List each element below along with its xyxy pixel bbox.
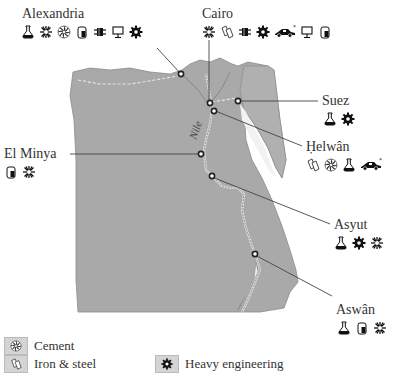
iron-steel-icon	[4, 355, 28, 373]
cement-icon	[324, 158, 338, 172]
industry-icons-alexandria	[21, 25, 143, 39]
electronics-icon	[300, 25, 314, 39]
city-label-cairo: Cairo	[202, 6, 233, 21]
chemicals-icon	[337, 321, 351, 335]
marker-asyut[interactable]	[209, 173, 214, 178]
textiles-icon	[373, 321, 387, 335]
iron-steel-icon	[306, 158, 320, 172]
legend-label: Heavy engineering	[185, 356, 284, 372]
food-processing-icon	[75, 25, 89, 39]
industry-icons-cairo	[202, 25, 332, 39]
heavy-engineering-icon	[155, 355, 179, 373]
textiles-icon	[202, 25, 216, 39]
textiles-icon	[39, 25, 53, 39]
electronics-icon	[111, 25, 125, 39]
food-processing-icon	[318, 25, 332, 39]
car-assembly-icon	[274, 25, 296, 39]
chemicals-icon	[21, 25, 35, 39]
industry-icons-aswan	[337, 321, 387, 335]
car-assembly-icon	[360, 158, 382, 172]
heavy-engineering-icon	[341, 112, 355, 126]
food-processing-icon	[355, 321, 369, 335]
chemicals-icon	[323, 112, 337, 126]
textiles-icon	[22, 165, 36, 179]
electrical-icon	[93, 25, 107, 39]
legend-item-cement: Cement	[4, 337, 74, 355]
marker-suez[interactable]	[235, 98, 240, 103]
heavy-engineering-icon	[129, 25, 143, 39]
cement-icon	[4, 337, 28, 355]
legend-item-iron-steel: Iron & steel	[4, 355, 96, 373]
legend-label: Iron & steel	[34, 356, 96, 372]
industry-icons-suez	[323, 112, 355, 126]
marker-helwan[interactable]	[211, 108, 216, 113]
city-label-alexandria: Alexandria	[22, 6, 84, 21]
chemicals-icon	[342, 158, 356, 172]
city-label-suez: Suez	[322, 93, 349, 108]
industry-icons-elminya	[4, 165, 36, 179]
industry-icons-asyut	[334, 236, 384, 250]
city-label-helwan: Ḥelwân	[306, 139, 350, 154]
legend-label: Cement	[34, 338, 74, 354]
food-processing-icon	[4, 165, 18, 179]
marker-aswan[interactable]	[252, 251, 257, 256]
electrical-icon	[238, 25, 252, 39]
heavy-engineering-icon	[256, 25, 270, 39]
iron-steel-icon	[220, 25, 234, 39]
cement-icon	[57, 25, 71, 39]
marker-cairo[interactable]	[207, 100, 212, 105]
marker-elminya[interactable]	[198, 151, 203, 156]
marker-alexandria[interactable]	[178, 71, 183, 76]
industry-icons-helwan	[306, 158, 382, 172]
legend-item-heavy-engineering: Heavy engineering	[155, 355, 284, 373]
textiles-icon	[370, 236, 384, 250]
chemicals-icon	[334, 236, 348, 250]
city-label-aswan: Aswân	[336, 302, 375, 317]
heavy-engineering-icon	[352, 236, 366, 250]
city-label-asyut: Asyut	[334, 217, 367, 232]
city-label-elminya: El Minya	[4, 146, 57, 161]
